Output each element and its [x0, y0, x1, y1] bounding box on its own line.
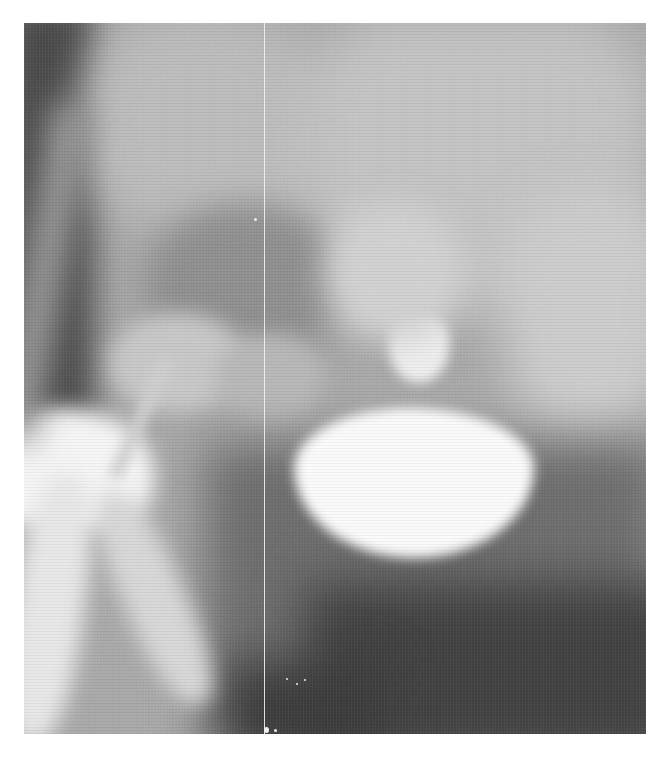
artifact-speck — [296, 683, 298, 685]
artifact-speck — [254, 218, 257, 221]
vertical-scan-artifact — [264, 23, 265, 734]
artifact-speck — [304, 679, 306, 681]
artifact-speck — [264, 727, 269, 733]
artifact-speck — [286, 678, 288, 680]
xray-image — [24, 23, 646, 734]
artifact-speck — [274, 729, 277, 732]
pubic-ramus — [324, 203, 464, 343]
pubic-bone-left — [214, 333, 324, 423]
right-hip-bone — [504, 193, 646, 433]
perineum-shadow — [224, 663, 384, 734]
